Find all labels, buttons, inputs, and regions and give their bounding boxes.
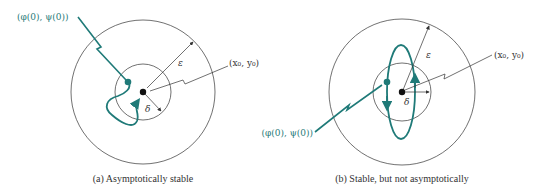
panel-b: (φ(0), ψ(0)) (x₀, y₀) ε δ (b) Stable, bu… (261, 19, 524, 185)
initial-point-label: (φ(0), ψ(0)) (17, 12, 69, 22)
initial-point-label: (φ(0), ψ(0)) (261, 128, 313, 138)
equilibrium-point (399, 89, 405, 95)
epsilon-radius-arrow (147, 42, 193, 88)
equilibrium-pointer (150, 66, 228, 91)
epsilon-label: ε (178, 58, 183, 68)
equilibrium-label: (x₀, y₀) (229, 58, 259, 68)
delta-label: δ (145, 104, 150, 114)
equilibrium-point (140, 89, 146, 95)
epsilon-label: ε (426, 50, 431, 60)
stability-diagram: (φ(0), ψ(0)) (x₀, y₀) ε δ (a) Asymptotic… (0, 0, 545, 186)
delta-label: δ (404, 97, 409, 107)
equilibrium-pointer (405, 55, 492, 90)
caption-a: (a) Asymptotically stable (93, 173, 194, 185)
panel-a: (φ(0), ψ(0)) (x₀, y₀) ε δ (a) Asymptotic… (17, 12, 259, 185)
equilibrium-label: (x₀, y₀) (494, 50, 524, 60)
caption-b: (b) Stable, but not asymptotically (335, 173, 469, 185)
initial-point-pointer (315, 85, 382, 132)
initial-point (384, 79, 391, 86)
initial-point (125, 79, 132, 86)
